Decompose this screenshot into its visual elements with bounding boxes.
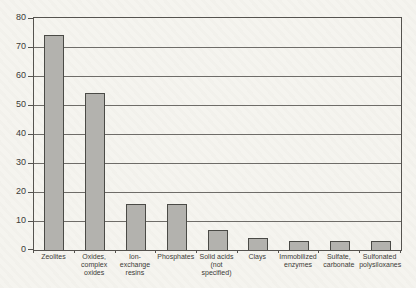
x-category-label-6: Clays	[237, 253, 278, 261]
x-category-label-4: Phosphates	[155, 253, 196, 261]
x-category-label-2: Oxides, complex oxides	[74, 253, 115, 277]
y-tick-label-50: 50	[0, 99, 26, 109]
y-tick-label-60: 60	[0, 70, 26, 80]
y-tick-label-20: 20	[0, 186, 26, 196]
x-axis-tick-8	[359, 250, 360, 253]
bar-8	[330, 241, 350, 250]
y-axis-tick-20	[28, 192, 33, 193]
x-category-label-8: Sulfate, carbonate	[318, 253, 359, 269]
y-tick-label-70: 70	[0, 41, 26, 51]
bar-9	[371, 241, 391, 250]
x-axis-tick-4	[196, 250, 197, 253]
y-tick-label-0: 0	[0, 244, 26, 254]
y-tick-label-80: 80	[0, 12, 26, 22]
y-axis-tick-50	[28, 105, 33, 106]
x-category-label-9: Sulfonated polysiloxanes	[359, 253, 400, 269]
y-axis-tick-10	[28, 221, 33, 222]
scanned-bar-chart-page: 01020304050607080 ZeolitesOxides, comple…	[0, 0, 416, 288]
bar-3	[126, 204, 146, 250]
y-axis-tick-80	[28, 18, 33, 19]
bar-2	[85, 93, 105, 250]
x-category-label-7: Immobilized enzymes	[278, 253, 319, 269]
y-tick-label-30: 30	[0, 157, 26, 167]
x-axis-tick-1	[74, 250, 75, 253]
x-axis-tick-7	[318, 250, 319, 253]
x-axis-tick-0	[33, 250, 34, 253]
gridline-60	[34, 76, 401, 77]
x-axis-tick-6	[278, 250, 279, 253]
x-axis-tick-9	[400, 250, 401, 253]
bar-7	[289, 241, 309, 250]
x-category-label-3: Ion-exchange resins	[115, 253, 156, 277]
bar-6	[248, 238, 268, 250]
y-axis-tick-30	[28, 163, 33, 164]
x-axis-tick-5	[237, 250, 238, 253]
plot-area	[33, 17, 402, 251]
gridline-70	[34, 47, 401, 48]
x-axis-tick-2	[115, 250, 116, 253]
y-axis-tick-60	[28, 76, 33, 77]
x-category-label-1: Zeolites	[33, 253, 74, 261]
y-axis-tick-40	[28, 134, 33, 135]
y-axis-tick-70	[28, 47, 33, 48]
bar-1	[44, 35, 64, 250]
bar-5	[208, 230, 228, 250]
y-tick-label-40: 40	[0, 128, 26, 138]
x-axis-tick-3	[155, 250, 156, 253]
bar-4	[167, 204, 187, 250]
y-tick-label-10: 10	[0, 215, 26, 225]
x-category-label-5: Solid acids (not specified)	[196, 253, 237, 277]
